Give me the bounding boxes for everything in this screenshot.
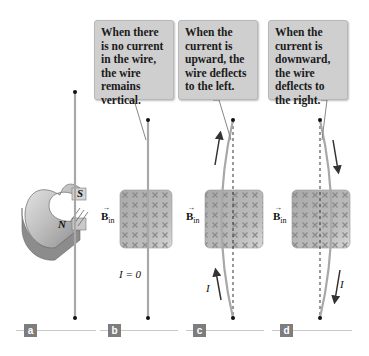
field-x-marks-d (292, 190, 350, 248)
current-label-d: I (340, 278, 344, 290)
panel-tag-d: d (280, 324, 293, 337)
wire-c-bottom-terminal (231, 316, 235, 320)
b-field-label-d: Bin (273, 210, 287, 225)
panel-tag-a: a (24, 324, 37, 337)
wire-c-top-terminal (231, 118, 235, 122)
current-up-arrow-top (215, 135, 220, 165)
north-pole-label: N (58, 218, 66, 230)
b-field-subscript: in (280, 216, 286, 225)
b-field-subscript: in (108, 216, 114, 225)
callout-pointer-c (213, 100, 231, 140)
wire-a-bottom-terminal (73, 316, 77, 320)
wire-d-bottom-terminal (318, 316, 322, 320)
wire-b-top-terminal (146, 118, 150, 122)
current-up-arrow-bottom (216, 272, 221, 300)
b-field-label-c: Bin (186, 210, 200, 225)
zero-current-label: I = 0 (119, 268, 141, 280)
b-field-subscript: in (193, 216, 199, 225)
vector-arrow-icon: → (102, 203, 110, 212)
vector-arrow-icon: → (187, 203, 195, 212)
current-down-arrow-top (333, 140, 338, 170)
vector-arrow-icon: → (274, 203, 282, 212)
panel-tag-c: c (193, 324, 206, 337)
field-x-marks-b (120, 190, 172, 248)
b-field-label-b: Bin (101, 210, 115, 225)
wire-a-top-terminal (73, 90, 77, 94)
wire-b-bottom-terminal (146, 316, 150, 320)
field-x-marks-c (205, 190, 263, 248)
current-label-c: I (206, 282, 210, 294)
panel-tag-b: b (108, 324, 121, 337)
callout-no-current: When there is no current in the wire, th… (94, 20, 174, 100)
callout-downward-current: When the current is downward, the wire d… (268, 20, 348, 100)
wire-d-top-terminal (318, 118, 322, 122)
callout-upward-current: When the current is upward, the wire def… (178, 20, 258, 100)
south-pole-label: S (77, 187, 83, 199)
